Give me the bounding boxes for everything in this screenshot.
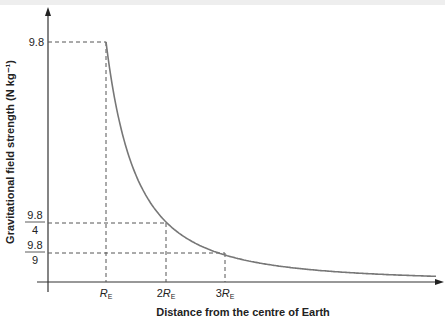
x-axis-arrow-icon bbox=[435, 279, 444, 285]
x-tick-3re: 3RE bbox=[216, 287, 235, 300]
y-tick-9.8: 9.8 bbox=[29, 36, 44, 48]
y-axis-arrow-icon bbox=[45, 7, 51, 16]
x-tick-re: RE bbox=[100, 287, 113, 300]
y-tick-ninth-num: 9.8 bbox=[27, 239, 42, 251]
x-axis-label: Distance from the centre of Earth bbox=[156, 306, 330, 318]
x-tick-2re: 2RE bbox=[157, 287, 176, 300]
y-tick-quarter-num: 9.8 bbox=[27, 209, 42, 221]
y-axis-label: Gravitational field strength (N kg⁻¹) bbox=[4, 60, 16, 244]
guide-lines bbox=[48, 42, 225, 282]
y-tick-ninth-den: 9 bbox=[32, 254, 38, 266]
chart: 9.8 9.8 4 9.8 9 RE 2RE 3RE Distance from… bbox=[0, 0, 445, 323]
field-strength-curve bbox=[106, 42, 436, 276]
y-tick-quarter-den: 4 bbox=[32, 224, 38, 236]
